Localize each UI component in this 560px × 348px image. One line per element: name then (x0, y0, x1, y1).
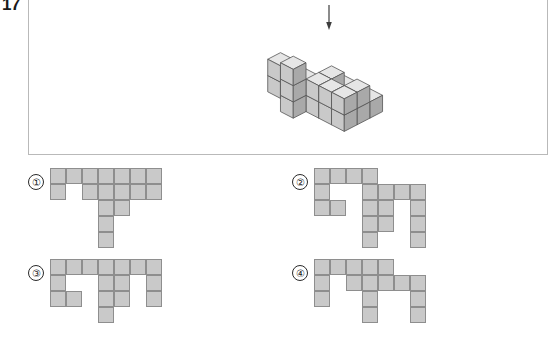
grid-cell (362, 200, 378, 216)
grid-cell (346, 275, 362, 291)
grid-cell (50, 168, 66, 184)
grid-cell (362, 216, 378, 232)
grid-cell (362, 291, 378, 307)
option-4-number: ④ (292, 265, 308, 281)
grid-cell (314, 275, 330, 291)
option-2-number: ② (292, 174, 308, 190)
grid-cell (378, 259, 394, 275)
grid-cell (146, 168, 162, 184)
grid-cell (394, 184, 410, 200)
grid-cell (66, 168, 82, 184)
grid-cell (98, 259, 114, 275)
grid-cell (346, 259, 362, 275)
grid-cell (378, 275, 394, 291)
grid-cell (114, 168, 130, 184)
grid-cell (114, 184, 130, 200)
grid-cell (82, 184, 98, 200)
grid-cell (98, 307, 114, 323)
grid-cell (114, 259, 130, 275)
grid-cell (130, 184, 146, 200)
grid-cell (130, 168, 146, 184)
grid-cell (362, 307, 378, 323)
grid-cell (50, 259, 66, 275)
isometric-cube-figure (244, 26, 444, 146)
grid-cell (330, 200, 346, 216)
grid-cell (50, 291, 66, 307)
grid-cell (314, 291, 330, 307)
grid-cell (114, 275, 130, 291)
grid-cell (314, 259, 330, 275)
grid-cell (114, 291, 130, 307)
grid-cell (378, 216, 394, 232)
grid-cell (98, 200, 114, 216)
grid-cell (314, 168, 330, 184)
grid-cell (330, 259, 346, 275)
grid-cell (98, 291, 114, 307)
grid-cell (362, 232, 378, 248)
grid-cell (98, 184, 114, 200)
grid-cell (410, 275, 426, 291)
question-number: 17 (2, 0, 20, 15)
grid-cell (82, 259, 98, 275)
grid-cell (98, 275, 114, 291)
grid-cell (346, 168, 362, 184)
grid-cell (146, 184, 162, 200)
grid-cell (378, 200, 394, 216)
grid-cell (114, 200, 130, 216)
grid-cell (394, 275, 410, 291)
grid-cell (146, 291, 162, 307)
grid-cell (146, 259, 162, 275)
option-3-number: ③ (28, 265, 44, 281)
grid-cell (98, 216, 114, 232)
grid-cell (362, 275, 378, 291)
grid-cell (362, 168, 378, 184)
grid-cell (98, 168, 114, 184)
grid-cell (50, 275, 66, 291)
grid-cell (66, 259, 82, 275)
grid-cell (146, 275, 162, 291)
grid-cell (314, 200, 330, 216)
grid-cell (98, 232, 114, 248)
grid-cell (362, 184, 378, 200)
grid-cell (330, 168, 346, 184)
grid-cell (410, 216, 426, 232)
grid-cell (362, 259, 378, 275)
grid-cell (410, 232, 426, 248)
option-1-number: ① (28, 174, 44, 190)
grid-cell (410, 307, 426, 323)
grid-cell (314, 184, 330, 200)
grid-cell (130, 259, 146, 275)
grid-cell (50, 184, 66, 200)
grid-cell (410, 184, 426, 200)
stimulus-panel (28, 0, 548, 155)
grid-cell (410, 200, 426, 216)
grid-cell (82, 168, 98, 184)
grid-cell (378, 184, 394, 200)
grid-cell (410, 291, 426, 307)
grid-cell (66, 291, 82, 307)
